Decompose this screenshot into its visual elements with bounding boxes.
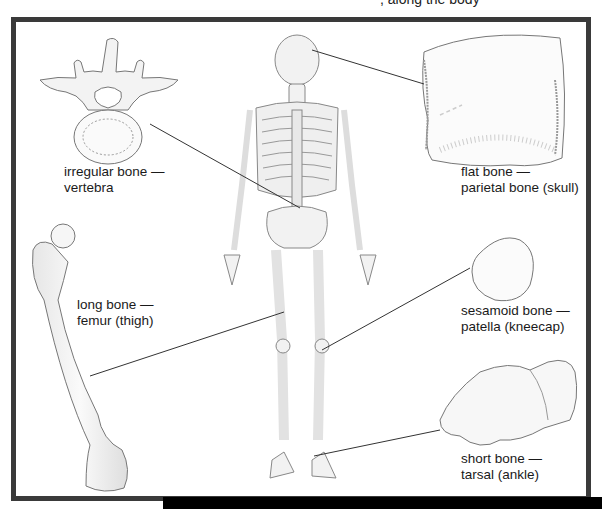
skeleton-illustration <box>224 35 376 478</box>
femur-illustration <box>32 224 127 491</box>
label-irregular-bone: irregular bone — vertebra <box>64 164 165 196</box>
label-short-bone: short bone — tarsal (ankle) <box>461 451 542 483</box>
label-type: short bone — <box>461 451 542 467</box>
tarsal-illustration <box>440 360 577 445</box>
label-example: parietal bone (skull) <box>461 180 579 196</box>
label-flat-bone: flat bone — parietal bone (skull) <box>461 164 579 196</box>
label-example: vertebra <box>64 180 165 196</box>
label-example: tarsal (ankle) <box>461 467 542 483</box>
label-long-bone: long bone — femur (thigh) <box>77 297 154 329</box>
parietal-bone-illustration <box>423 35 565 166</box>
label-type: sesamoid bone — <box>461 303 570 319</box>
label-sesamoid-bone: sesamoid bone — patella (kneecap) <box>461 303 570 335</box>
patella-illustration <box>472 238 533 301</box>
label-type: irregular bone — <box>64 164 165 180</box>
vertebra-illustration <box>40 38 178 164</box>
label-type: flat bone — <box>461 164 579 180</box>
label-type: long bone — <box>77 297 154 313</box>
label-example: femur (thigh) <box>77 313 154 329</box>
bone-types-illustration <box>0 0 602 509</box>
label-example: patella (kneecap) <box>461 319 570 335</box>
